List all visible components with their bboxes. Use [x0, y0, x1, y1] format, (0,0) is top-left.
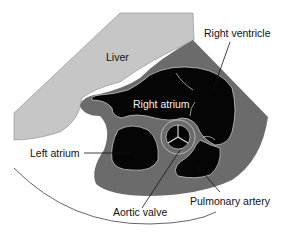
- label-liver: Liver: [106, 51, 129, 63]
- label-left-atrium: Left atrium: [30, 147, 80, 159]
- label-pulmonary-artery: Pulmonary artery: [190, 195, 271, 207]
- heart-ultrasound-diagram: Liver Right ventricle Right atrium Left …: [0, 0, 285, 233]
- label-right-atrium: Right atrium: [133, 98, 190, 110]
- label-right-ventricle: Right ventricle: [204, 27, 271, 39]
- label-aortic-valve: Aortic valve: [113, 206, 167, 218]
